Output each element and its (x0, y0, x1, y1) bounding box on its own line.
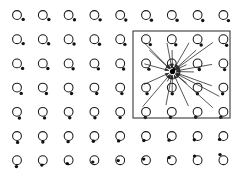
anion-circle (167, 11, 176, 20)
cation-dot (22, 18, 25, 21)
cation-dot (72, 42, 75, 45)
anion-circle (116, 59, 125, 68)
cation-dot (22, 42, 25, 45)
anion-circle (193, 107, 202, 116)
cation-dot (120, 92, 123, 95)
lattice-site (90, 107, 99, 119)
anion-circle (38, 11, 47, 20)
anion-circle (13, 156, 22, 165)
cation-dot (71, 67, 74, 70)
cation-dot (47, 42, 50, 45)
lattice-site (193, 132, 202, 142)
cation-dot (142, 157, 145, 160)
lattice-site (38, 156, 47, 167)
lattice-site (13, 132, 22, 144)
anion-circle (13, 132, 22, 141)
lattice-site (13, 35, 25, 46)
lattice-site (64, 59, 75, 70)
lattice-site (193, 59, 202, 71)
cation-dot (20, 92, 23, 95)
lattice-site (193, 107, 202, 119)
cation-dot (227, 19, 230, 22)
anion-circle (38, 83, 47, 92)
anion-circle (167, 107, 176, 116)
lattice-site (219, 107, 228, 119)
anion-circle (116, 83, 125, 92)
lattice-site (116, 11, 128, 22)
anion-circle (90, 59, 99, 68)
cation-dot (225, 44, 228, 47)
cation-dot (218, 153, 221, 156)
lattice-site (167, 35, 177, 47)
interaction-vector (144, 73, 169, 84)
cation-dot (117, 159, 120, 162)
anion-circle (219, 156, 228, 165)
lattice-layer (13, 11, 230, 169)
anion-circle (13, 107, 22, 116)
lattice-site (64, 11, 76, 22)
cation-dot (122, 67, 125, 70)
lattice-site (116, 107, 125, 119)
cation-dot (199, 43, 202, 46)
cation-dot (95, 92, 98, 95)
anion-circle (64, 11, 73, 20)
lattice-site (38, 107, 47, 119)
interaction-vector (175, 50, 196, 69)
cation-dot (193, 138, 196, 141)
anion-circle (116, 107, 125, 116)
cation-dot (221, 92, 224, 95)
anion-circle (193, 11, 202, 20)
reference-ion-dot (170, 69, 175, 74)
cation-dot (16, 141, 19, 144)
anion-circle (219, 11, 228, 20)
lattice-site (219, 35, 228, 47)
lattice-site (13, 156, 22, 169)
anion-circle (116, 11, 125, 20)
lattice-site (116, 59, 126, 71)
anion-circle (13, 83, 22, 92)
lattice-site (64, 107, 73, 119)
lattice-site (116, 132, 125, 143)
lattice-site (219, 83, 228, 95)
anion-circle (64, 59, 73, 68)
cation-dot (93, 116, 96, 119)
cation-dot (47, 18, 50, 21)
anion-circle (38, 35, 47, 44)
cation-dot (174, 43, 177, 46)
cation-dot (70, 92, 73, 95)
cation-dot (193, 154, 196, 157)
lattice-site (90, 59, 100, 71)
anion-circle (38, 59, 47, 68)
anion-circle (38, 132, 47, 141)
anion-circle (90, 107, 99, 116)
reference-ion-layer (170, 69, 175, 74)
lattice-site (142, 107, 151, 119)
interaction-vector-layer (143, 42, 220, 108)
anion-circle (167, 35, 176, 44)
anion-circle (142, 107, 151, 116)
cation-dot (66, 162, 69, 165)
anion-circle (90, 11, 99, 20)
lattice-site (142, 83, 151, 95)
cation-dot (21, 67, 24, 70)
lattice-site (142, 156, 151, 165)
cation-dot (45, 92, 48, 95)
anion-circle (13, 11, 22, 20)
cation-dot (150, 18, 153, 21)
lattice-site (193, 35, 203, 47)
lattice-site (13, 11, 25, 21)
anion-circle (219, 59, 228, 68)
anion-circle (64, 83, 73, 92)
cation-dot (98, 18, 101, 21)
cation-dot (124, 18, 127, 21)
lattice-site (167, 107, 176, 119)
lattice-site (13, 107, 22, 119)
lattice-site (64, 35, 76, 46)
cation-dot (123, 43, 126, 46)
cation-dot (118, 116, 121, 119)
cation-dot (41, 140, 44, 143)
cation-dot (167, 156, 170, 159)
cation-dot (169, 116, 172, 119)
anion-circle (90, 35, 99, 44)
lattice-site (38, 132, 47, 144)
